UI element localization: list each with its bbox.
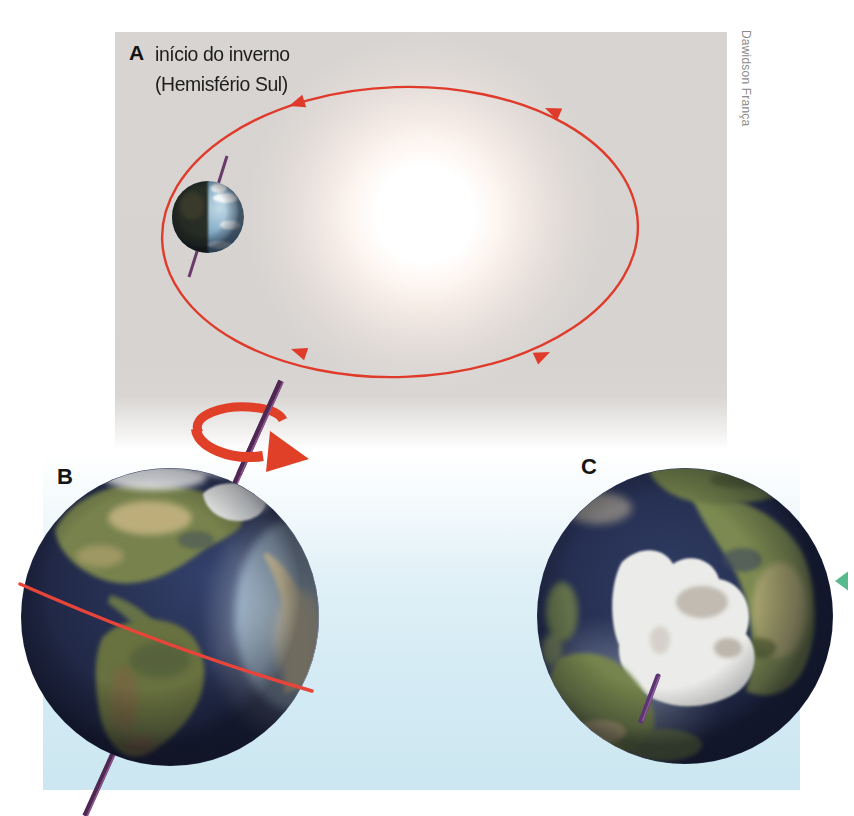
- caption-line-1: início do inverno: [155, 40, 290, 70]
- globe-b-group: [20, 381, 400, 816]
- globe-b-surface: [21, 459, 400, 766]
- orbit-arrow-top-left-icon: [287, 95, 306, 112]
- globe-c-surface: [495, 462, 833, 785]
- earth-a: [170, 156, 244, 277]
- caption-line-2: (Hemisfério Sul): [155, 70, 290, 100]
- orbit-direction-arrows: [287, 95, 562, 365]
- illustrator-credit: Dawidson França: [739, 30, 753, 126]
- panel-b-label: B: [57, 464, 73, 490]
- panel-a-caption: início do inverno (Hemisfério Sul): [155, 40, 290, 99]
- panel-a-label: A: [129, 41, 144, 65]
- globe-c-group: [495, 462, 833, 785]
- orbit-arrow-bottom-left-icon: [289, 343, 308, 360]
- panel-c-label: C: [581, 454, 597, 480]
- figure-page: A início do inverno (Hemisfério Sul) B C…: [0, 0, 854, 816]
- diagram-artwork: [0, 0, 854, 816]
- teal-pointer-icon: [835, 572, 848, 591]
- rotation-arrowhead-icon: [266, 431, 309, 472]
